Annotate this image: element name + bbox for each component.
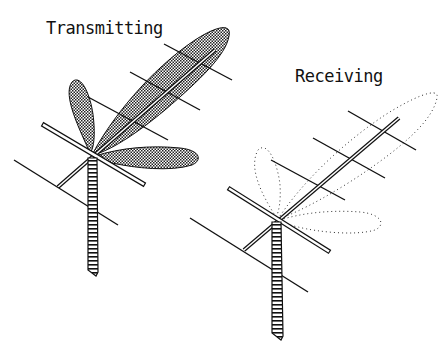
receiving-label: Receiving bbox=[295, 66, 383, 86]
transmitting-panel: Transmitting bbox=[14, 18, 232, 276]
transmitting-radiation-pattern bbox=[69, 28, 229, 169]
transmitting-label: Transmitting bbox=[46, 18, 163, 38]
antenna-diagram: Transmitting Recei bbox=[0, 0, 445, 347]
receiving-boom bbox=[244, 118, 399, 250]
receiving-panel: Receiving bbox=[190, 66, 437, 340]
transmitting-reflector bbox=[14, 160, 118, 225]
receiving-mast bbox=[272, 222, 283, 340]
transmitting-mast bbox=[88, 158, 98, 276]
